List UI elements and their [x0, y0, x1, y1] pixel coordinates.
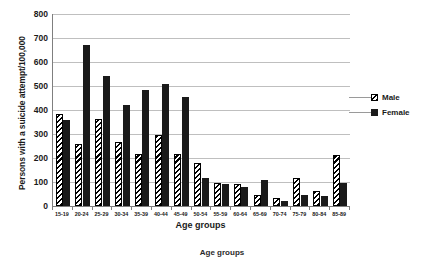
x-axis-title: Age groups — [52, 220, 349, 230]
bar-female-55-59[interactable] — [222, 184, 229, 206]
bar-male-60-64[interactable] — [234, 184, 241, 206]
legend-swatch-male-icon — [371, 94, 378, 101]
bar-group — [330, 14, 350, 206]
bar-female-65-69[interactable] — [261, 180, 268, 206]
bar-group — [231, 14, 251, 206]
bar-female-85-89[interactable] — [340, 183, 347, 206]
bar-male-75-79[interactable] — [293, 178, 300, 206]
x-axis-tick-mark — [349, 206, 350, 210]
bar-female-40-44[interactable] — [162, 84, 169, 206]
y-axis-tick-label: 500 — [24, 81, 48, 91]
bar-male-65-69[interactable] — [254, 195, 261, 206]
bar-groups — [53, 14, 350, 206]
legend-label: Female — [382, 108, 410, 117]
bar-group — [152, 14, 172, 206]
bar-group — [53, 14, 73, 206]
bar-male-30-34[interactable] — [115, 142, 122, 206]
legend-item-female[interactable]: Female — [371, 105, 441, 120]
bar-male-55-59[interactable] — [214, 183, 221, 206]
legend-leader-line — [349, 112, 371, 113]
bar-group — [251, 14, 271, 206]
bar-female-25-29[interactable] — [103, 76, 110, 206]
bar-male-40-44[interactable] — [155, 135, 162, 206]
bar-female-35-39[interactable] — [142, 90, 149, 206]
bar-group — [271, 14, 291, 206]
y-axis-tick-label: 200 — [24, 153, 48, 163]
bar-male-50-54[interactable] — [194, 163, 201, 206]
bar-male-20-24[interactable] — [75, 144, 82, 206]
bar-male-70-74[interactable] — [273, 198, 280, 206]
bar-male-45-49[interactable] — [174, 154, 181, 206]
bar-group — [172, 14, 192, 206]
bar-male-25-29[interactable] — [95, 119, 102, 206]
y-axis-tick-labels: 8007006005004003002001000 — [24, 8, 48, 208]
bar-group — [93, 14, 113, 206]
legend-item-male[interactable]: Male — [371, 90, 441, 105]
bar-female-50-54[interactable] — [202, 178, 209, 206]
bar-female-20-24[interactable] — [83, 45, 90, 206]
legend-label: Male — [382, 93, 400, 102]
bar-female-15-19[interactable] — [63, 120, 70, 206]
figure-caption: Age groups — [0, 248, 444, 257]
bar-group — [112, 14, 132, 206]
bar-group — [192, 14, 212, 206]
bar-group — [291, 14, 311, 206]
bar-female-80-84[interactable] — [321, 196, 328, 206]
bar-female-75-79[interactable] — [301, 195, 308, 206]
chart-legend: MaleFemale — [371, 90, 441, 120]
bar-male-35-39[interactable] — [135, 154, 142, 206]
y-axis-tick-label: 700 — [24, 33, 48, 43]
bar-group — [132, 14, 152, 206]
y-axis-tick-label: 0 — [24, 201, 48, 211]
plot-area — [52, 14, 350, 207]
bar-group — [310, 14, 330, 206]
bar-female-60-64[interactable] — [241, 187, 248, 206]
y-axis-tick-label: 600 — [24, 57, 48, 67]
bar-group — [73, 14, 93, 206]
legend-leader-line — [349, 97, 371, 98]
bar-male-15-19[interactable] — [56, 114, 63, 206]
bar-male-85-89[interactable] — [333, 155, 340, 206]
bar-female-45-49[interactable] — [182, 97, 189, 206]
bar-male-80-84[interactable] — [313, 191, 320, 206]
y-axis-tick-label: 100 — [24, 177, 48, 187]
legend-swatch-female-icon — [371, 109, 378, 116]
y-axis-tick-label: 800 — [24, 9, 48, 19]
bar-female-30-34[interactable] — [123, 105, 130, 206]
y-axis-tick-label: 400 — [24, 105, 48, 115]
y-axis-tick-label: 300 — [24, 129, 48, 139]
bar-group — [211, 14, 231, 206]
